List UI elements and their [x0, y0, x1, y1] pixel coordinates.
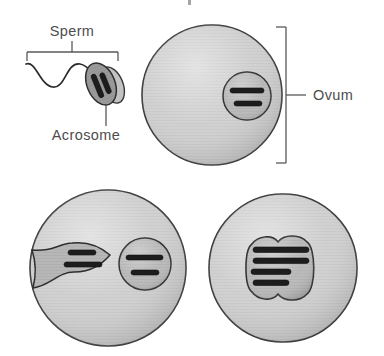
fertilization-diagram: Sperm Acrosome Ovum — [0, 0, 384, 356]
fused-nucleus-shading — [246, 236, 314, 300]
ovum-pronucleus-shading — [119, 238, 171, 290]
sperm-bracket — [27, 41, 118, 61]
panel-top: Sperm Acrosome Ovum — [26, 0, 353, 165]
label-ovum: Ovum — [313, 87, 353, 103]
figure-canvas: Sperm Acrosome Ovum — [0, 0, 384, 356]
cropped-title-remnant — [188, 0, 191, 5]
panel-bottom-right — [209, 194, 357, 342]
label-acrosome: Acrosome — [52, 127, 120, 143]
ovum-nucleus-shading — [223, 72, 271, 120]
label-sperm: Sperm — [50, 23, 95, 39]
panel-bottom-left — [30, 190, 186, 346]
